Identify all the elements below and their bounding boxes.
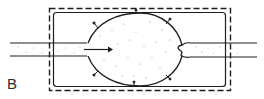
outlet-tube	[190, 43, 257, 57]
radial-tick-marks	[93, 9, 171, 86]
flow-arrow	[84, 47, 113, 53]
inner-chamber	[54, 13, 226, 87]
panel-label: B	[7, 76, 17, 91]
inlet-tube	[10, 43, 87, 56]
outer-boundary-dashed	[50, 9, 231, 91]
diagram	[0, 0, 264, 99]
